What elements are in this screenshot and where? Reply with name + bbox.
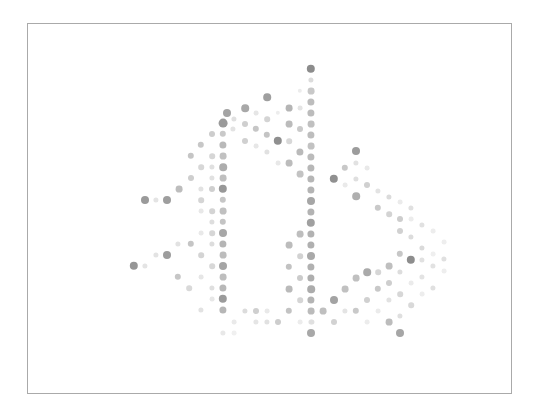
scatter-dot bbox=[442, 269, 447, 274]
scatter-dot bbox=[397, 251, 403, 257]
scatter-dot bbox=[409, 281, 414, 286]
scatter-dot bbox=[297, 126, 303, 132]
scatter-dot bbox=[307, 197, 315, 205]
scatter-dot bbox=[307, 208, 314, 215]
scatter-dot bbox=[163, 251, 171, 259]
scatter-dot bbox=[242, 138, 248, 144]
scatter-dot bbox=[220, 252, 227, 259]
scatter-dot bbox=[209, 175, 214, 180]
scatter-dot bbox=[409, 217, 414, 222]
scatter-dot bbox=[342, 165, 348, 171]
scatter-dot bbox=[307, 164, 314, 171]
scatter-dot bbox=[286, 105, 293, 112]
scatter-dot bbox=[442, 240, 447, 245]
scatter-dot bbox=[296, 148, 303, 155]
scatter-dot bbox=[431, 252, 436, 257]
scatter-dot bbox=[353, 308, 359, 314]
scatter-dot bbox=[353, 275, 360, 282]
scatter-dot bbox=[297, 171, 304, 178]
scatter-dot bbox=[353, 176, 358, 181]
scatter-dot bbox=[210, 297, 215, 302]
scatter-dot bbox=[230, 126, 235, 131]
scatter-dot bbox=[219, 284, 226, 291]
scatter-dot bbox=[275, 319, 281, 325]
scatter-dot bbox=[264, 132, 270, 138]
scatter-dot bbox=[308, 88, 315, 95]
scatter-dot bbox=[419, 245, 424, 250]
scatter-dot bbox=[386, 263, 393, 270]
scatter-dot bbox=[198, 252, 204, 258]
scatter-dot bbox=[286, 121, 293, 128]
scatter-dot bbox=[308, 308, 315, 315]
scatter-dot bbox=[276, 111, 280, 115]
scatter-dot bbox=[188, 241, 194, 247]
scatter-dot bbox=[419, 274, 424, 279]
scatter-dot bbox=[376, 309, 381, 314]
scatter-dot bbox=[342, 308, 347, 313]
scatter-dot bbox=[209, 131, 215, 137]
scatter-dot bbox=[264, 149, 269, 154]
scatter-dot bbox=[309, 319, 314, 324]
scatter-dot bbox=[209, 153, 215, 159]
scatter-dot bbox=[286, 160, 293, 167]
scatter-dot bbox=[175, 241, 180, 246]
scatter-dot bbox=[141, 196, 149, 204]
scatter-dot bbox=[353, 160, 358, 165]
scatter-dot bbox=[219, 141, 226, 148]
scatter-dot bbox=[386, 280, 392, 286]
scatter-dot bbox=[386, 194, 391, 199]
scatter-dot bbox=[330, 296, 338, 304]
scatter-dot bbox=[431, 229, 436, 234]
scatter-dot bbox=[220, 274, 227, 281]
scatter-dot bbox=[397, 291, 403, 297]
scatter-dot bbox=[408, 234, 413, 239]
scatter-dot bbox=[286, 286, 293, 293]
scatter-dot bbox=[307, 219, 315, 227]
scatter-dot bbox=[220, 197, 226, 203]
scatter-dot bbox=[307, 263, 314, 270]
scatter-dot bbox=[307, 296, 314, 303]
scatter-dot bbox=[223, 109, 231, 117]
scatter-dot bbox=[198, 186, 203, 191]
scatter-dot bbox=[153, 197, 158, 202]
scatter-dot bbox=[408, 302, 414, 308]
scatter-dot bbox=[298, 106, 303, 111]
scatter-dot bbox=[363, 268, 371, 276]
scatter-dot bbox=[365, 320, 370, 325]
scatter-dot bbox=[397, 269, 402, 274]
scatter-dot bbox=[441, 256, 446, 261]
scatter-dot bbox=[397, 228, 403, 234]
scatter-dot bbox=[220, 175, 227, 182]
scatter-dot bbox=[209, 230, 215, 236]
scatter-dot bbox=[153, 252, 158, 257]
scatter-dot bbox=[408, 205, 413, 210]
scatter-dot bbox=[364, 297, 370, 303]
figure-frame bbox=[27, 23, 512, 394]
scatter-dot bbox=[430, 263, 435, 268]
scatter-dot bbox=[331, 319, 337, 325]
scatter-dot bbox=[198, 164, 204, 170]
scatter-dot bbox=[175, 274, 181, 280]
scatter-dot bbox=[219, 262, 227, 270]
scatter-dot bbox=[364, 182, 370, 188]
scatter-dot bbox=[142, 263, 147, 268]
scatter-dot bbox=[298, 320, 303, 325]
scatter-dot bbox=[265, 309, 270, 314]
scatter-dot bbox=[209, 186, 215, 192]
scatter-dot bbox=[407, 256, 415, 264]
scatter-dot bbox=[220, 131, 226, 137]
scatter-dot bbox=[209, 241, 214, 246]
scatter-dot bbox=[397, 216, 403, 222]
scatter-dot bbox=[297, 297, 303, 303]
scatter-dot bbox=[307, 65, 315, 73]
scatter-dot bbox=[375, 286, 381, 292]
scatter-dot bbox=[307, 252, 315, 260]
scatter-dot bbox=[286, 308, 292, 314]
scatter-dot bbox=[219, 185, 227, 193]
scatter-dot bbox=[231, 116, 236, 121]
scatter-dot bbox=[220, 153, 227, 160]
scatter-dot bbox=[264, 116, 270, 122]
scatter-dot bbox=[307, 109, 314, 116]
scatter-dot bbox=[386, 319, 393, 326]
scatter-dot bbox=[188, 175, 194, 181]
